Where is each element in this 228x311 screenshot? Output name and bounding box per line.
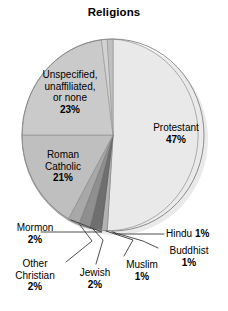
slice-label-protestant: Protestant 47% <box>138 122 214 145</box>
slice-label-roman-catholic-line1: Roman <box>30 149 96 161</box>
leader-line-jewish <box>93 229 103 264</box>
slice-value-roman-catholic: 21% <box>30 172 96 184</box>
slice-label-hindu-line1: Hindu <box>166 228 192 239</box>
leader-line-other-christian <box>66 225 92 262</box>
slice-label-other-christian-line1: Other <box>2 258 68 270</box>
slice-label-unspecified-line2: unaffiliated, <box>28 81 112 93</box>
slice-value-other-christian: 2% <box>2 281 68 293</box>
slice-value-jewish: 2% <box>72 279 118 291</box>
slice-label-unspecified-line3: or none <box>28 92 112 104</box>
slice-label-protestant-line1: Protestant <box>138 122 214 134</box>
slice-value-unspecified: 23% <box>28 104 112 116</box>
slice-value-protestant: 47% <box>138 134 214 146</box>
slice-label-buddhist-line1: Buddhist <box>160 245 218 257</box>
slice-label-unspecified: Unspecified, unaffiliated, or none 23% <box>28 69 112 115</box>
slice-label-hindu: Hindu 1% <box>166 228 226 240</box>
slice-label-other-christian-line2: Christian <box>2 270 68 282</box>
slice-label-other-christian: Other Christian 2% <box>2 258 68 293</box>
slice-label-jewish: Jewish 2% <box>72 267 118 290</box>
slice-label-roman-catholic: Roman Catholic 21% <box>30 149 96 184</box>
slice-value-muslim: 1% <box>118 271 166 283</box>
slice-label-muslim-line1: Muslim <box>118 259 166 271</box>
slice-label-roman-catholic-line2: Catholic <box>30 161 96 173</box>
slice-value-hindu: 1% <box>195 228 209 239</box>
slice-label-mormon-line1: Mormon <box>4 222 66 234</box>
slice-value-mormon: 2% <box>4 234 66 246</box>
slice-label-buddhist: Buddhist 1% <box>160 245 218 268</box>
slice-label-jewish-line1: Jewish <box>72 267 118 279</box>
slice-value-buddhist: 1% <box>160 257 218 269</box>
slice-label-mormon: Mormon 2% <box>4 222 66 245</box>
slice-label-unspecified-line1: Unspecified, <box>28 69 112 81</box>
pie-chart-figure: Religions <box>0 0 228 311</box>
slice-label-muslim: Muslim 1% <box>118 259 166 282</box>
